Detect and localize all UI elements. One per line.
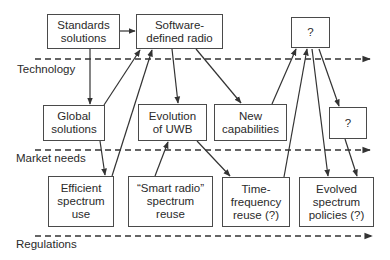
arrow-newcap-unknown [272, 49, 296, 104]
arrow-sdr-newcap [196, 49, 241, 103]
arrow-smartradio-uwb [155, 142, 168, 176]
node-evolution-of-uwb: Evolution of UWB [138, 104, 207, 141]
arrow-uwb-timefreq [197, 141, 230, 176]
node-smart-radio-spectrum-reuse: “Smart radio” spectrum reuse [128, 176, 213, 227]
technology-lane-label: Technology [17, 63, 75, 75]
arrow-global-efficient [100, 141, 105, 175]
market-needs-lane-label: Market needs [16, 152, 86, 164]
node-unknown-top: ? [291, 17, 330, 48]
arrow-unknown-unknownmid [319, 49, 339, 106]
node-evolved-spectrum-policies: Evolved spectrum policies (?) [299, 177, 374, 227]
node-time-frequency-reuse: Time- frequency reuse (?) [222, 177, 290, 227]
node-new-capabilities: New capabilities [214, 104, 287, 141]
node-efficient-spectrum-use: Efficient spectrum use [48, 176, 114, 227]
node-unknown-mid: ? [329, 107, 367, 139]
node-global-solutions: Global solutions [43, 105, 105, 141]
arrow-unknownmid-evolved [345, 139, 357, 176]
arrow-global-sdr [104, 50, 140, 105]
arrow-sdr-uwb [172, 49, 178, 103]
node-software-defined-radio: Software- defined radio [136, 14, 223, 49]
regulations-lane-label: Regulations [16, 238, 77, 250]
node-standards-solutions: Standards solutions [47, 14, 120, 49]
